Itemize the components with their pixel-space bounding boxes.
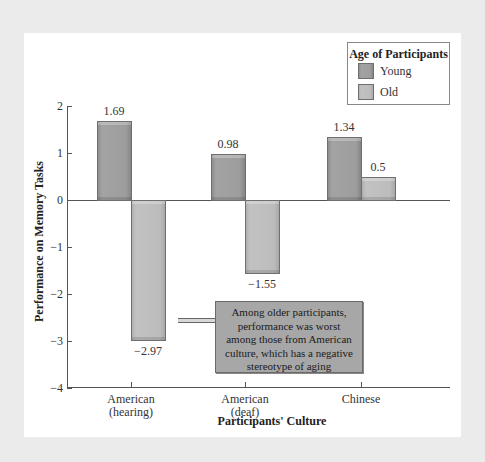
legend-label-young: Young (380, 64, 411, 79)
bar-bevel (362, 178, 395, 181)
x-category-label: Chinese (316, 393, 406, 406)
bar-value-label: 1.69 (89, 105, 139, 117)
y-tick (67, 200, 72, 201)
legend-label-old: Old (380, 85, 398, 100)
bar-old (131, 200, 166, 341)
bar-value-label: 0.5 (353, 161, 403, 173)
bar-value-label: −2.97 (123, 345, 173, 357)
legend-title: Age of Participants (348, 47, 449, 62)
bar-old (245, 200, 280, 274)
bar-bevel (212, 155, 245, 158)
bar-value-label: 1.34 (319, 121, 369, 133)
bar-old (361, 177, 396, 202)
x-axis-baseline (67, 387, 450, 388)
bar-bevel (328, 138, 361, 141)
annotation-line: among those from American (219, 333, 359, 347)
y-tick (67, 106, 72, 107)
bar-young (211, 154, 246, 201)
bar-bevel (132, 201, 165, 204)
y-axis-title: Performance on Memory Tasks (32, 132, 47, 352)
y-tick (67, 388, 72, 389)
x-tick (245, 382, 246, 387)
legend-swatch-old (358, 84, 374, 100)
bar-bevel (246, 201, 279, 204)
bar-value-label: 0.98 (203, 138, 253, 150)
annotation-line: culture, which has a negative (219, 347, 359, 361)
bar-value-label: −1.55 (237, 278, 287, 290)
bar-bevel (98, 122, 131, 125)
x-axis-title: Participants' Culture (172, 414, 372, 429)
x-category-label: (hearing) (86, 406, 176, 419)
x-tick (131, 382, 132, 387)
y-tick-label: −4 (39, 382, 63, 394)
bar-bevel (98, 197, 131, 200)
bar-young (97, 121, 132, 201)
annotation-box: Among older participants, performance wa… (215, 301, 363, 373)
x-tick (361, 382, 362, 387)
y-tick (67, 341, 72, 342)
y-tick (67, 294, 72, 295)
y-tick (67, 153, 72, 154)
legend-swatch-young (358, 63, 374, 79)
bar-bevel (246, 270, 279, 273)
bar-bevel (132, 337, 165, 340)
bar-bevel (328, 197, 361, 200)
y-tick (67, 247, 72, 248)
y-tick-label: 2 (39, 100, 63, 112)
annotation-line: Among older participants, (219, 306, 359, 320)
annotation-line: performance was worst (219, 320, 359, 334)
bar-bevel (362, 197, 395, 200)
annotation-line: stereotype of aging (219, 360, 359, 374)
annotation-arrow-shaft (178, 318, 215, 323)
bar-bevel (212, 197, 245, 200)
legend: Age of Participants Young Old (347, 42, 450, 105)
